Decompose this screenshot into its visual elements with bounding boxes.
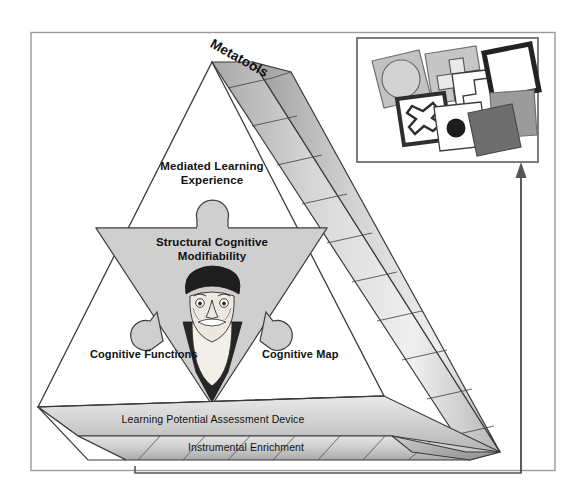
label-structural-cognitive-modifiability: Structural Cognitive Modifiability xyxy=(130,236,294,263)
puzzle-tab-top xyxy=(197,200,229,228)
label-cognitive-functions: Cognitive Functions xyxy=(90,348,210,361)
label-mle-line1: Mediated Learning xyxy=(138,160,286,174)
label-mediated-learning-experience: Mediated Learning Experience xyxy=(138,160,286,187)
card-solid-square-dark-icon xyxy=(468,104,521,156)
label-cognitive-map: Cognitive Map xyxy=(262,348,382,361)
shape-cards-inset xyxy=(357,38,539,162)
label-mle-line2: Experience xyxy=(138,174,286,188)
label-scm-line2: Modifiability xyxy=(130,250,294,264)
label-instrumental-enrichment: Instrumental Enrichment xyxy=(146,441,346,453)
label-learning-potential-assessment-device: Learning Potential Assessment Device xyxy=(88,413,338,425)
figure-canvas: Metatools Mediated Learning Experience S… xyxy=(0,0,582,497)
label-scm-line1: Structural Cognitive xyxy=(130,236,294,250)
